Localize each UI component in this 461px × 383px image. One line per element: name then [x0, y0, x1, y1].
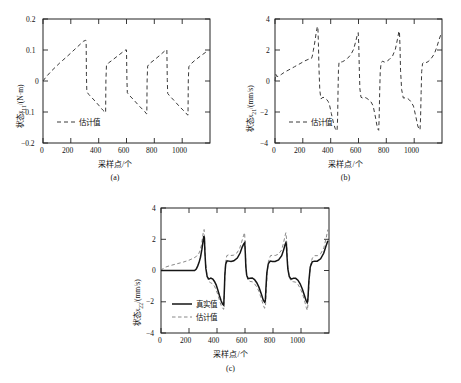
- y-tick-label-c-0: −4: [146, 329, 154, 338]
- y-tick-label-a-2: 0: [35, 77, 39, 86]
- x-tick-label-a-0: 0: [40, 146, 44, 155]
- x-tick-label-b-3: 600: [350, 146, 361, 155]
- x-axis-label-c: 采样点/个: [115, 348, 346, 359]
- x-tick-label-b-2: 400: [322, 146, 333, 155]
- panel-caption-b: (b): [230, 173, 461, 182]
- series-line-estimated-a: [43, 40, 209, 115]
- y-tick-label-a-1: −0.1: [21, 108, 35, 117]
- panel-caption-a: (a): [0, 173, 230, 182]
- x-tick-label-c-3: 600: [236, 336, 247, 345]
- x-tick-label-a-3: 600: [118, 146, 129, 155]
- legend-label-true-c: 真实值: [196, 298, 217, 309]
- x-tick-label-c-0: 0: [158, 336, 162, 345]
- legend-label-estimated-b: 估计值: [311, 116, 332, 127]
- legend-label-estimated-c: 估计值: [196, 311, 217, 322]
- y-tick-label-a-4: 0.2: [26, 15, 35, 24]
- y-tick-label-b-0: −4: [260, 139, 268, 148]
- y-tick-label-c-3: 2: [152, 235, 156, 244]
- y-tick-label-c-1: −2: [146, 297, 154, 306]
- x-tick-label-b-0: 0: [272, 146, 276, 155]
- y-tick-label-a-3: 0.1: [26, 46, 35, 55]
- x-ticks-b: [275, 19, 414, 143]
- x-axis-label-a: 采样点/个: [0, 158, 230, 169]
- chart-panel-c: 状态x22/(mm/s): [115, 190, 346, 383]
- y-tick-label-c-2: 0: [152, 266, 156, 275]
- y-tick-label-a-0: −0.2: [21, 139, 35, 148]
- x-tick-label-a-2: 400: [90, 146, 101, 155]
- y-ticks-a: [43, 19, 210, 143]
- x-tick-label-a-1: 200: [62, 146, 73, 155]
- panel-caption-c: (c): [115, 364, 346, 373]
- x-tick-label-a-5: 1000: [172, 146, 187, 155]
- x-axis-label-b: 采样点/个: [230, 158, 461, 169]
- series-line-estimated-b: [275, 26, 441, 130]
- x-tick-label-b-1: 200: [294, 146, 305, 155]
- y-tick-label-b-4: 4: [266, 15, 270, 24]
- y-tick-label-b-1: −2: [260, 108, 268, 117]
- y-tick-label-b-2: 0: [266, 77, 270, 86]
- x-tick-label-c-1: 200: [180, 336, 191, 345]
- x-ticks-a: [43, 19, 182, 143]
- series-line-true-c: [161, 236, 328, 305]
- x-tick-label-a-4: 800: [146, 146, 157, 155]
- y-tick-label-c-4: 4: [152, 204, 156, 213]
- axes-frame-a: [43, 19, 210, 143]
- chart-panel-a: 状态x11/(N·m): [0, 0, 230, 190]
- y-tick-label-b-3: 2: [266, 46, 270, 55]
- x-tick-label-c-2: 400: [208, 336, 219, 345]
- x-tick-label-c-4: 800: [264, 336, 275, 345]
- x-tick-label-c-5: 1000: [290, 336, 305, 345]
- x-tick-label-b-4: 800: [378, 146, 389, 155]
- x-tick-label-b-5: 1000: [404, 146, 419, 155]
- legend-label-estimated-a: 估计值: [79, 116, 100, 127]
- chart-panel-b: 状态x21/(mm/s): [230, 0, 461, 190]
